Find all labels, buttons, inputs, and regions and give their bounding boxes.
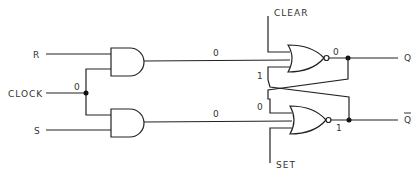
value-nor-bottom-out: 1 bbox=[336, 123, 342, 133]
wire-clock-down bbox=[86, 93, 111, 115]
label-clock: CLOCK bbox=[8, 89, 43, 99]
label-r: R bbox=[33, 50, 40, 60]
wire-and-bottom-out bbox=[144, 121, 292, 122]
nor-top-bubble bbox=[324, 56, 329, 61]
wire-clock-up bbox=[86, 69, 111, 93]
clock-junction bbox=[84, 91, 89, 96]
value-clock-node: 0 bbox=[74, 82, 80, 92]
wire-and-top-out bbox=[144, 60, 290, 61]
label-q-bar: Q bbox=[404, 115, 412, 125]
value-and-top-out: 0 bbox=[213, 48, 219, 58]
nor-bottom-bubble bbox=[326, 118, 331, 123]
label-q: Q bbox=[404, 53, 412, 63]
label-clear: CLEAR bbox=[274, 8, 308, 18]
value-and-bottom-out: 0 bbox=[213, 109, 219, 119]
label-s: S bbox=[34, 126, 41, 136]
and-gate-top bbox=[111, 48, 144, 76]
and-gate-bottom bbox=[111, 109, 144, 137]
label-set: SET bbox=[276, 160, 296, 170]
circuit-svg: R CLOCK S CLEAR SET Q Q 0 0 0 1 0 0 1 bbox=[0, 0, 417, 177]
flip-flop-diagram: R CLOCK S CLEAR SET Q Q 0 0 0 1 0 0 1 bbox=[0, 0, 417, 177]
wire-set bbox=[270, 128, 292, 163]
wire-clear bbox=[268, 16, 290, 52]
nor-gate-bottom bbox=[290, 106, 326, 134]
nor-gate-top bbox=[288, 45, 324, 72]
value-nor-top-out: 0 bbox=[333, 47, 339, 57]
value-nor-bottom-feedback-in: 0 bbox=[257, 102, 263, 112]
value-nor-top-feedback-in: 1 bbox=[257, 71, 263, 81]
